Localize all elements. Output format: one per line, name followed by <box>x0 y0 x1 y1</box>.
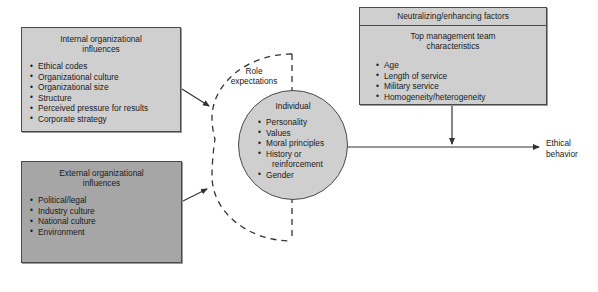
arrow-external-to-individual <box>183 189 207 201</box>
ethical-behavior-label-line1: Ethical <box>546 138 571 148</box>
individual-title: Individual <box>239 91 347 111</box>
factors-title-line1: Top management team <box>411 31 496 41</box>
external-influences-title: External organizational influences <box>22 162 181 188</box>
internal-influences-title-line2: influences <box>82 44 119 54</box>
ethical-behavior-label-line2: behavior <box>546 149 578 159</box>
external-influences-title-line1: External organizational <box>59 168 143 178</box>
external-influences-box: External organizational influences Polit… <box>21 161 182 263</box>
list-item: Values <box>258 128 347 139</box>
list-item: Structure <box>30 93 180 104</box>
external-influences-list: Political/legal Industry culture Nationa… <box>30 195 181 237</box>
ethical-behavior-diagram: Internal organizational influences Ethic… <box>0 0 598 292</box>
list-item-continuation: reinforcement <box>258 159 347 170</box>
factors-list: Age Length of service Military service H… <box>376 60 546 102</box>
role-expectations-label: Role expectations <box>214 66 294 86</box>
internal-influences-box: Internal organizational influences Ethic… <box>21 27 181 132</box>
external-influences-title-line2: influences <box>83 178 120 188</box>
ethical-behavior-label: Ethical behavior <box>546 138 598 159</box>
factors-title: Top management team characteristics <box>360 26 546 51</box>
role-expectations-label-line2: expectations <box>231 76 278 86</box>
internal-influences-title-line1: Internal organizational <box>60 34 142 44</box>
list-item: Age <box>376 60 546 71</box>
list-item: Length of service <box>376 71 546 82</box>
list-item: Personality <box>258 117 347 128</box>
list-item: Moral principles <box>258 138 347 149</box>
list-item: Political/legal <box>30 195 181 206</box>
list-item: Environment <box>30 227 181 238</box>
role-expectations-label-line1: Role <box>245 66 262 76</box>
neutralizing-enhancing-factors-box: Neutralizing/enhancing factors Top manag… <box>359 7 547 105</box>
list-item: Ethical codes <box>30 61 180 72</box>
list-item: Organizational size <box>30 82 180 93</box>
arrow-internal-to-individual <box>182 89 209 106</box>
internal-influences-list: Ethical codes Organizational culture Org… <box>30 61 180 125</box>
list-item: Corporate strategy <box>30 114 180 125</box>
list-item: Military service <box>376 81 546 92</box>
list-item: Industry culture <box>30 206 181 217</box>
factors-header: Neutralizing/enhancing factors <box>360 8 546 26</box>
list-item: History or <box>258 149 347 160</box>
individual-circle: Individual Personality Values Moral prin… <box>238 90 348 200</box>
individual-list: Personality Values Moral principles Hist… <box>258 117 347 181</box>
list-item: Homogeneity/heterogeneity <box>376 92 546 103</box>
list-item: Organizational culture <box>30 72 180 83</box>
list-item: Gender <box>258 170 347 181</box>
internal-influences-title: Internal organizational influences <box>22 28 180 54</box>
list-item: Perceived pressure for results <box>30 103 180 114</box>
list-item: National culture <box>30 216 181 227</box>
factors-title-line2: characteristics <box>426 41 479 51</box>
